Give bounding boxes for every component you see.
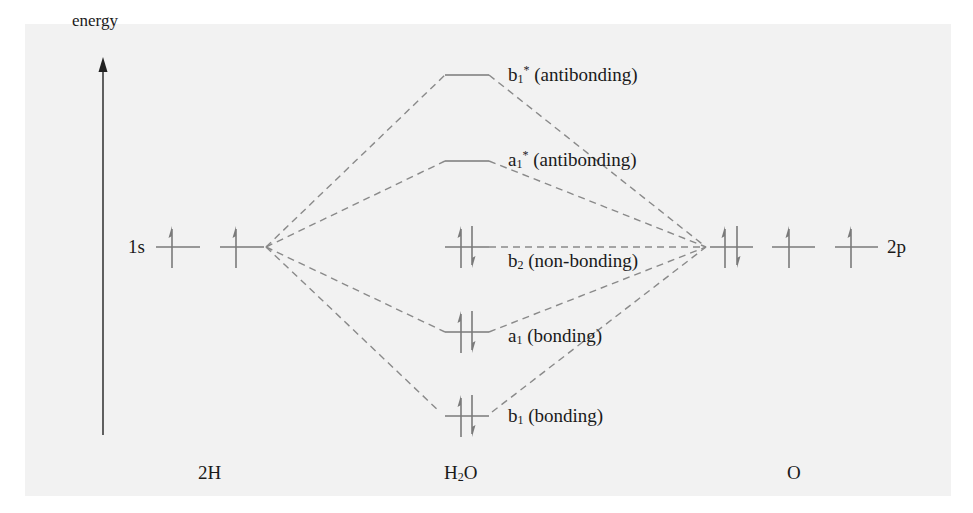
mo-diagram-graphic — [0, 0, 973, 513]
half-arrow-down-icon — [472, 341, 476, 353]
o-2p-level-b — [772, 226, 815, 268]
connector-2h-a1star — [266, 161, 445, 247]
half-arrow-up-icon — [169, 226, 173, 238]
half-arrow-up-icon — [458, 395, 462, 407]
column-label-h2o: H2O — [444, 463, 477, 482]
mo-level-a1 — [445, 311, 489, 353]
half-arrow-up-icon — [458, 311, 462, 323]
h-1s-levels — [156, 226, 264, 268]
mo-label-b2: b2 (non-bonding) — [508, 251, 638, 270]
connector-o-a1star — [489, 161, 706, 247]
half-arrow-down-icon — [737, 256, 741, 268]
half-arrow-down-icon — [472, 425, 476, 437]
connector-2h-a1 — [266, 247, 445, 332]
o-2p-levels — [710, 226, 878, 268]
mo-label-b1-star: b1* (antibonding) — [508, 65, 638, 84]
energy-axis — [99, 57, 108, 435]
half-arrow-up-icon — [786, 226, 790, 238]
h-orbital-label: 1s — [128, 237, 145, 256]
energy-axis-label: energy — [72, 12, 118, 29]
mo-label-b1: b1 (bonding) — [508, 406, 603, 425]
h2o-mo-levels — [445, 75, 489, 437]
o-2p-level-c — [835, 226, 878, 268]
o-orbital-label: 2p — [887, 237, 906, 256]
mo-level-b2 — [445, 226, 489, 268]
column-label-2h: 2H — [198, 463, 221, 482]
o-2p-level-a — [710, 226, 753, 268]
mo-label-a1-star: a1* (antibonding) — [508, 150, 637, 169]
connector-2h-b1star — [266, 75, 445, 247]
mo-level-b1 — [445, 395, 489, 437]
half-arrow-up-icon — [458, 226, 462, 238]
connector-lines — [266, 75, 706, 412]
column-label-o: O — [787, 463, 801, 482]
mo-label-a1: a1 (bonding) — [508, 326, 602, 345]
arrow-up-icon — [99, 57, 108, 72]
half-arrow-up-icon — [233, 226, 237, 238]
h-1s-level-b — [220, 226, 264, 268]
half-arrow-down-icon — [472, 256, 476, 268]
half-arrow-up-icon — [848, 226, 852, 238]
h-1s-level-a — [156, 226, 200, 268]
connector-2h-b1 — [266, 247, 440, 412]
half-arrow-up-icon — [722, 226, 726, 238]
